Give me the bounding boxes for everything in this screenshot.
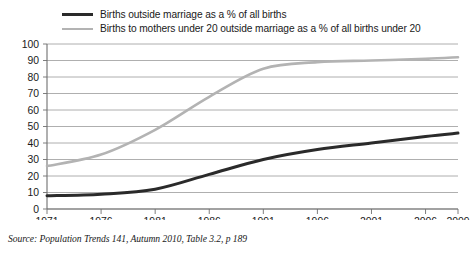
source-note: Source: Population Trends 141, Autumn 20…: [8, 233, 247, 244]
legend-line-swatch-light-icon: [62, 28, 93, 30]
chart-x-tick-labels: 197119761981198619911996200120062009: [35, 216, 469, 220]
chart-svg: 0102030405060708090100 19711976198119861…: [0, 38, 472, 220]
series-line: [47, 133, 458, 196]
x-tick-label: 1971: [35, 216, 58, 220]
x-tick-label: 1996: [306, 216, 329, 220]
chart-x-tick-marks: [47, 209, 458, 214]
x-tick-label: 2006: [414, 216, 437, 220]
y-tick-label: 30: [27, 154, 39, 165]
y-tick-label: 70: [27, 88, 39, 99]
x-tick-label: 1976: [90, 216, 113, 220]
chart-y-tick-labels: 0102030405060708090100: [22, 39, 40, 215]
x-tick-label: 2009: [446, 216, 469, 220]
chart-legend: Births outside marriage as a % of all bi…: [62, 8, 462, 36]
y-tick-label: 50: [27, 121, 39, 132]
y-tick-label: 10: [27, 187, 39, 198]
legend-item-label: Births outside marriage as a % of all bi…: [100, 9, 286, 20]
chart-figure: Births outside marriage as a % of all bi…: [0, 0, 472, 258]
y-tick-label: 0: [33, 204, 39, 215]
y-tick-label: 60: [27, 105, 39, 116]
legend-item-mothers-under-20: Births to mothers under 20 outside marri…: [62, 22, 462, 35]
legend-line-swatch-dark-icon: [62, 13, 93, 16]
legend-item-label: Births to mothers under 20 outside marri…: [100, 23, 421, 34]
series-line: [47, 57, 458, 166]
chart-y-tick-marks: [43, 44, 47, 209]
y-tick-label: 40: [27, 138, 39, 149]
legend-item-births-outside-marriage: Births outside marriage as a % of all bi…: [62, 8, 462, 21]
x-tick-label: 1986: [198, 216, 221, 220]
x-tick-label: 1981: [144, 216, 167, 220]
y-tick-label: 20: [27, 171, 39, 182]
x-tick-label: 2001: [360, 216, 383, 220]
y-tick-label: 90: [27, 55, 39, 66]
chart-gridlines: [47, 44, 458, 209]
y-tick-label: 80: [27, 72, 39, 83]
chart-plot-area: 0102030405060708090100 19711976198119861…: [0, 38, 472, 220]
x-tick-label: 1991: [252, 216, 275, 220]
y-tick-label: 100: [22, 39, 40, 50]
